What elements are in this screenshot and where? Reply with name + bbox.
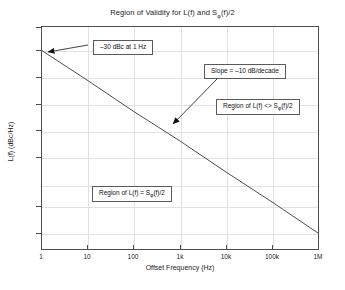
gridline-vertical — [181, 27, 182, 249]
gridline-vertical — [134, 27, 135, 249]
chart-title-main: Region of Validity for L(f) and S — [110, 8, 217, 17]
chart-title: Region of Validity for L(f) and Sφ(f)/2 — [0, 8, 345, 19]
xtick-mark — [180, 245, 181, 250]
ytick-mark — [36, 206, 41, 207]
annotation-region-not-equal-main: Region of L(f) <> S — [223, 102, 278, 109]
ytick-mark — [36, 233, 41, 234]
gridline-horizontal — [42, 234, 318, 235]
annotation-region-equal-tail: (f)/2 — [153, 189, 165, 196]
xtick-label-100: 100 — [128, 253, 139, 260]
gridline-vertical — [273, 27, 274, 249]
annotation-region-not-equal: Region of L(f) <> Sφ(f)/2 — [216, 99, 300, 115]
xtick-mark — [133, 245, 134, 250]
chart-title-tail: (f)/2 — [221, 8, 235, 17]
xtick-label-100k: 100k — [265, 253, 279, 260]
ytick-mark — [36, 157, 41, 158]
xtick-label-1M: 1M — [313, 253, 322, 260]
gridline-vertical — [88, 27, 89, 249]
gridline-horizontal — [42, 186, 318, 187]
ytick-mark — [36, 77, 41, 78]
xtick-mark — [318, 245, 319, 250]
plot-area — [41, 26, 319, 250]
annotation-start-point: –30 dBc at 1 Hz — [93, 40, 153, 55]
y-axis-label: L(f) (dBc/Hz) — [7, 82, 14, 202]
gridline-horizontal — [42, 207, 318, 208]
xtick-mark — [272, 245, 273, 250]
xtick-mark — [87, 245, 88, 250]
x-axis-label: Offset Frequency (Hz) — [41, 264, 319, 271]
ytick-mark — [36, 104, 41, 105]
ytick-mark — [36, 130, 41, 131]
xtick-label-10: 10 — [83, 253, 90, 260]
gridline-vertical — [227, 27, 228, 249]
annotation-region-equal: Region of L(f) = Sφ(f)/2 — [92, 186, 172, 202]
annotation-slope: Slope = –10 dB/decade — [204, 64, 286, 79]
gridline-horizontal — [42, 158, 318, 159]
gridline-horizontal — [42, 51, 318, 52]
xtick-label-1: 1 — [39, 253, 43, 260]
annotation-region-not-equal-tail: (f)/2 — [281, 102, 293, 109]
xtick-mark — [226, 245, 227, 250]
annotation-region-equal-main: Region of L(f) = S — [99, 189, 150, 196]
xtick-mark — [41, 245, 42, 250]
gridline-horizontal — [42, 132, 318, 133]
xtick-label-1k: 1k — [177, 253, 184, 260]
ytick-mark — [36, 27, 41, 28]
xtick-label-10k: 10k — [221, 253, 231, 260]
ytick-mark — [36, 50, 41, 51]
chart-figure: Region of Validity for L(f) and Sφ(f)/2 … — [0, 0, 345, 290]
